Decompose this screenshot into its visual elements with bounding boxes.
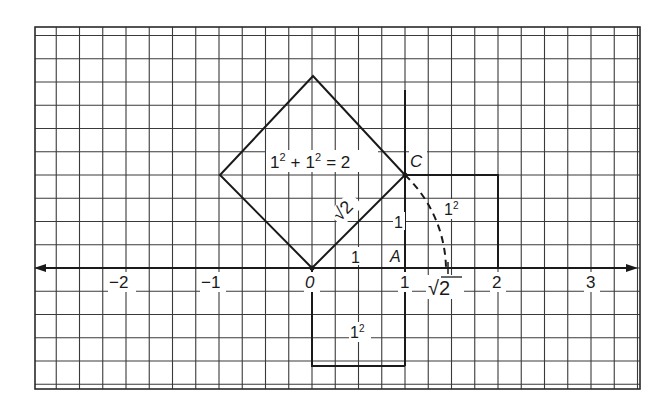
- tick-label-3: 3: [586, 273, 595, 292]
- point-c-label: C: [410, 152, 423, 171]
- sqrt2-tick-label: √2: [428, 277, 450, 299]
- tick-label-neg2: −2: [109, 273, 128, 292]
- tick-label-1: 1: [400, 273, 409, 292]
- tick-label-2: 2: [492, 273, 501, 292]
- base-length-label: 1: [351, 249, 360, 266]
- axis-tick-labels: −2 −1 0 1 2 3 √2: [108, 272, 600, 299]
- point-a-label: A: [389, 248, 401, 265]
- point-c-dot: [403, 173, 408, 178]
- tick-label-neg1: −1: [201, 273, 220, 292]
- tick-label-0: 0: [305, 273, 315, 292]
- origin-dot: [310, 266, 315, 271]
- axis-right-arrow-icon: [626, 264, 638, 272]
- number-line-axis: [34, 264, 638, 272]
- height-length-label: 1: [394, 214, 403, 231]
- sqrt2-construction-diagram: 12+12= 2 C A √2 1 1 12 12 −2 −1 0 1 2 3 …: [0, 0, 664, 406]
